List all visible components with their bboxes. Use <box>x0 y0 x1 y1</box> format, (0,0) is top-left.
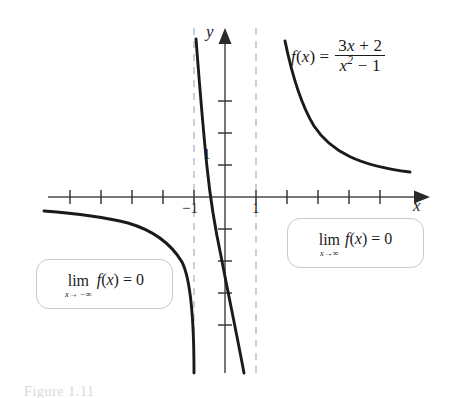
y-axis <box>218 28 232 373</box>
limit-word: lim <box>319 232 340 248</box>
y-axis-arrowhead <box>219 28 232 44</box>
denominator-exponent: 2 <box>347 55 353 68</box>
x-tick-label-minus-1: −1 <box>182 200 198 217</box>
limit-word: lim <box>68 273 89 289</box>
function-formula: f ( x ) = 3x + 2 x2 − 1 <box>291 38 386 77</box>
figure-canvas: y x −1 1 1 f ( x ) = 3x + 2 x2 − 1 lim x… <box>0 0 450 398</box>
curve-branch-middle <box>196 39 244 373</box>
formula-numerator: 3x + 2 <box>335 37 385 55</box>
callout-limit-positive-infinity: lim x→∞ f(x) = 0 <box>287 218 424 268</box>
y-axis-label: y <box>206 22 214 42</box>
x-axis <box>48 190 430 204</box>
numerator-addend: + 2 <box>359 36 382 55</box>
limit-body: f(x) = 0 <box>97 271 144 289</box>
limit-subscript: x→∞ <box>320 249 339 258</box>
numerator-coefficient: 3 <box>338 36 347 55</box>
x-axis-label: x <box>413 196 421 216</box>
limit-subscript: x→ −∞ <box>65 290 92 299</box>
limit-operator: lim x→ −∞ <box>65 273 92 299</box>
formula-paren-close: ) <box>310 47 316 67</box>
formula-argument: x <box>302 47 310 67</box>
denominator-remainder: − 1 <box>358 56 381 75</box>
limit-body: f(x) = 0 <box>345 230 392 248</box>
formula-denominator: x2 − 1 <box>335 55 385 75</box>
formula-equals: = <box>319 47 329 67</box>
x-tick-label-1: 1 <box>252 200 260 217</box>
figure-caption: Figure 1.11 <box>24 384 95 398</box>
y-tick-label-1: 1 <box>203 146 211 163</box>
limit-operator: lim x→∞ <box>319 232 340 258</box>
limit-expression: lim x→∞ f(x) = 0 <box>319 230 393 257</box>
curve-group <box>44 39 410 373</box>
limit-expression: lim x→ −∞ f(x) = 0 <box>65 271 144 298</box>
callout-limit-negative-infinity: lim x→ −∞ f(x) = 0 <box>36 259 173 309</box>
formula-fraction: 3x + 2 x2 − 1 <box>335 37 385 76</box>
numerator-variable: x <box>347 36 355 55</box>
